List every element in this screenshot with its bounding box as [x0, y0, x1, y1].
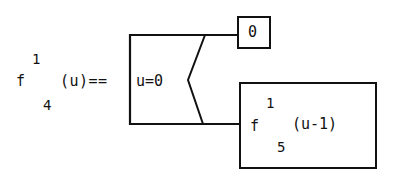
branch-chevron	[188, 35, 205, 124]
def-func-superscript: 1	[32, 52, 40, 66]
def-args-operator: (u)==	[60, 74, 108, 89]
def-func-subscript: 4	[43, 98, 51, 112]
false-func-args: (u-1)	[292, 117, 337, 132]
diagram-lines	[0, 0, 400, 180]
true-branch-value: 0	[248, 25, 257, 40]
false-func-superscript: 1	[266, 96, 274, 110]
condition-text: u=0	[136, 74, 163, 89]
def-func-name: f	[16, 74, 25, 89]
false-func-subscript: 5	[277, 140, 285, 154]
false-func-name: f	[250, 119, 259, 134]
